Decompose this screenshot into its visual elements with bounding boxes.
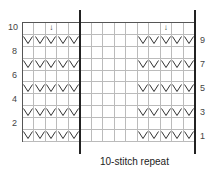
stitch-cell [126,106,137,118]
down-arrow-icon: ↓ [164,24,168,32]
slip-stitch-v-icon [161,60,171,68]
stitch-cell [149,35,160,47]
stitch-cell [161,82,172,94]
slip-stitch-v-icon [138,36,148,44]
stitch-cell [80,47,91,59]
slip-stitch-v-icon [58,36,68,44]
stitch-cell [172,130,183,142]
stitch-cell [161,106,172,118]
slip-stitch-v-icon [58,60,68,68]
stitch-cell [92,47,103,59]
stitch-cell [46,130,57,142]
stitch-cell [34,82,45,94]
slip-stitch-v-icon [161,108,171,116]
stitch-cell [103,82,114,94]
slip-stitch-v-icon [46,60,56,68]
stitch-cell [115,118,126,130]
row-number-4: 4 [12,94,17,104]
stitch-cell [34,106,45,118]
stitch-cell [46,82,57,94]
slip-stitch-v-icon [46,131,56,139]
slip-stitch-v-icon [161,131,171,139]
stitch-cell [92,71,103,83]
stitch-cell [80,59,91,71]
slip-stitch-v-icon [69,60,79,68]
slip-stitch-v-icon [46,84,56,92]
row-number-3: 3 [200,107,205,117]
repeat-label: 10-stitch repeat [100,156,169,167]
row-number-1: 1 [200,131,205,141]
stitch-cell [138,47,149,59]
stitch-cell [34,23,45,35]
row-number-9: 9 [200,35,205,45]
stitch-cell [103,59,114,71]
slip-stitch-v-icon [138,84,148,92]
stitch-cell [57,71,68,83]
stitch-cell [126,23,137,35]
stitch-cell [80,94,91,106]
slip-stitch-v-icon [149,108,159,116]
slip-stitch-v-icon [69,36,79,44]
stitch-cell [46,35,57,47]
slip-stitch-v-icon [23,36,33,44]
stitch-cell [138,71,149,83]
repeat-boundary-right [194,10,196,154]
stitch-cell [172,82,183,94]
slip-stitch-v-icon [35,131,45,139]
stitch-cell [92,106,103,118]
stitch-cell: ↓ [46,23,57,35]
stitch-cell [23,94,34,106]
row-number-2: 2 [12,118,17,128]
stitch-cell [46,71,57,83]
stitch-cell [57,59,68,71]
stitch-cell [172,106,183,118]
stitch-cell [23,82,34,94]
stitch-cell [161,35,172,47]
stitch-cell [126,59,137,71]
stitch-cell [161,71,172,83]
slip-stitch-v-icon [35,84,45,92]
stitch-cell [34,71,45,83]
stitch-cell [115,130,126,142]
stitch-cell [34,59,45,71]
stitch-cell [57,23,68,35]
knitting-chart: ↓↓ [22,22,194,141]
stitch-cell [57,106,68,118]
stitch-cell [172,118,183,130]
slip-stitch-v-icon [23,84,33,92]
down-arrow-icon: ↓ [49,24,53,32]
stitch-cell [23,71,34,83]
stitch-cell [34,94,45,106]
stitch-cell [161,59,172,71]
row-number-10: 10 [8,22,18,32]
stitch-cell [138,23,149,35]
slip-stitch-v-icon [58,108,68,116]
stitch-cell [46,94,57,106]
stitch-cell [46,106,57,118]
stitch-cell [92,130,103,142]
stitch-cell [103,130,114,142]
stitch-cell [103,47,114,59]
stitch-cell [80,71,91,83]
slip-stitch-v-icon [161,84,171,92]
stitch-cell [92,118,103,130]
slip-stitch-v-icon [172,60,182,68]
repeat-boundary-left [79,10,81,154]
stitch-cell [115,59,126,71]
stitch-cell [57,118,68,130]
stitch-cell [161,130,172,142]
stitch-cell [80,106,91,118]
stitch-cell [103,35,114,47]
stitch-cell [103,94,114,106]
stitch-cell [23,23,34,35]
stitch-cell [138,118,149,130]
stitch-cell [126,82,137,94]
stitch-cell [126,130,137,142]
stitch-cell [115,71,126,83]
slip-stitch-v-icon [46,36,56,44]
row-number-8: 8 [12,46,17,56]
stitch-cell [138,106,149,118]
row-number-6: 6 [12,70,17,80]
slip-stitch-v-icon [172,84,182,92]
stitch-cell [115,47,126,59]
